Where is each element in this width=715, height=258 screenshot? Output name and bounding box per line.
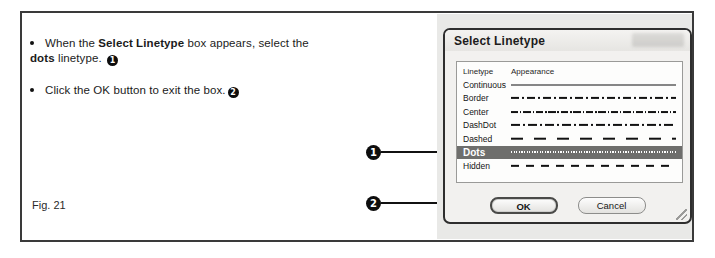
instruction-1-bold-linetype: dots bbox=[30, 52, 55, 64]
list-item-label: Border bbox=[463, 93, 511, 103]
ok-button[interactable]: OK bbox=[490, 197, 558, 214]
linetype-preview-dots bbox=[511, 146, 676, 160]
inline-badge-2: 2 bbox=[228, 87, 239, 98]
dialog-title-bar[interactable]: Select Linetype bbox=[445, 30, 690, 51]
dialog-title: Select Linetype bbox=[454, 34, 545, 48]
select-linetype-dialog: Select Linetype Linetype Appearance Cont… bbox=[443, 28, 692, 224]
list-item-dashed[interactable]: Dashed bbox=[457, 132, 682, 146]
column-header-appearance: Appearance bbox=[511, 67, 682, 76]
list-item-hidden[interactable]: Hidden bbox=[457, 159, 682, 173]
dialog-button-bar: OK Cancel bbox=[445, 190, 690, 220]
instruction-item-2: Click the OK button to exit the box.2 bbox=[30, 83, 330, 98]
linetype-preview-dashed bbox=[511, 132, 676, 146]
list-item-label: Continuous bbox=[463, 80, 511, 90]
linetype-preview-hidden bbox=[511, 159, 676, 173]
linetype-preview-center bbox=[511, 105, 676, 119]
list-item-label: Dots bbox=[463, 147, 511, 158]
instruction-2-text: Click the OK button to exit the box. bbox=[45, 84, 226, 96]
list-item-dashdot[interactable]: DashDot bbox=[457, 119, 682, 133]
instruction-1-bold-dialog-name: Select Linetype bbox=[98, 37, 184, 49]
list-item-label: Hidden bbox=[463, 161, 511, 171]
linetype-listbox[interactable]: Linetype Appearance Continuous Border Ce… bbox=[456, 61, 683, 183]
instruction-1-pre: When the bbox=[45, 37, 98, 49]
bullet-icon bbox=[30, 41, 34, 45]
list-item-dots[interactable]: Dots bbox=[457, 146, 682, 160]
callout-badge-1: 1 bbox=[366, 145, 381, 160]
list-item-border[interactable]: Border bbox=[457, 92, 682, 106]
column-header-linetype: Linetype bbox=[463, 67, 511, 76]
linetype-preview-continuous bbox=[511, 78, 676, 92]
inline-badge-1: 1 bbox=[107, 55, 118, 66]
list-item-label: Center bbox=[463, 107, 511, 117]
linetype-preview-dashdot bbox=[511, 119, 676, 133]
instruction-1-post: linetype. bbox=[55, 52, 102, 64]
resize-grip-icon[interactable] bbox=[676, 209, 687, 220]
figure-caption: Fig. 21 bbox=[32, 199, 66, 211]
instruction-1-mid: box appears, select the bbox=[184, 37, 309, 49]
instruction-list: When the Select Linetype box appears, se… bbox=[30, 36, 330, 98]
list-item-continuous[interactable]: Continuous bbox=[457, 78, 682, 92]
instruction-item-1: When the Select Linetype box appears, se… bbox=[30, 36, 330, 66]
list-item-label: DashDot bbox=[463, 120, 511, 130]
cancel-button[interactable]: Cancel bbox=[578, 197, 646, 214]
list-item-center[interactable]: Center bbox=[457, 105, 682, 119]
window-controls-icon[interactable] bbox=[632, 33, 684, 47]
linetype-preview-border bbox=[511, 92, 676, 106]
callout-badge-2: 2 bbox=[366, 196, 381, 211]
list-item-label: Dashed bbox=[463, 134, 511, 144]
bullet-icon bbox=[30, 88, 34, 92]
listbox-header: Linetype Appearance bbox=[457, 62, 682, 78]
